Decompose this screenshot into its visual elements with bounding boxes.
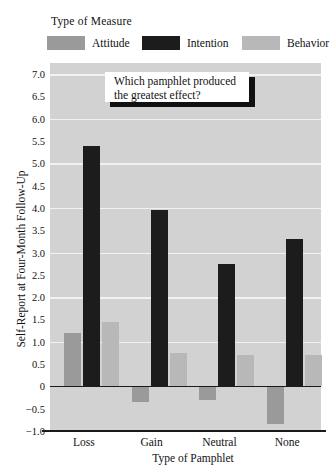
legend-label-intention: Intention	[187, 37, 229, 49]
bar-attitude-neutral	[199, 386, 216, 399]
callout-line-1: Which pamphlet produced	[114, 75, 242, 89]
bar-attitude-gain	[132, 386, 149, 402]
y-tick-label: 3.5	[32, 225, 45, 236]
legend-swatch-intention	[142, 36, 180, 50]
y-tick-label: 0	[40, 381, 45, 392]
bar-behavior-none	[305, 355, 322, 386]
legend-title: Type of Measure	[51, 15, 132, 27]
bar-behavior-gain	[170, 353, 187, 386]
y-tick-label: 7.0	[32, 69, 45, 80]
x-tick-label-gain: Gain	[140, 436, 162, 448]
zero-baseline	[50, 386, 321, 388]
bar-intention-loss	[83, 146, 100, 387]
y-tick-label: 2.5	[32, 269, 45, 280]
y-tick-label: 3.0	[32, 247, 45, 258]
callout-line-2: the greatest effect?	[114, 89, 242, 103]
legend-label-attitude: Attitude	[92, 37, 130, 49]
bar-attitude-loss	[64, 333, 81, 387]
legend-item-attitude: Attitude	[47, 35, 130, 51]
bar-behavior-neutral	[237, 355, 254, 386]
legend-swatch-attitude	[47, 36, 85, 50]
bar-intention-neutral	[218, 264, 235, 387]
y-tick-label: 1.0	[32, 336, 45, 347]
bar-chart: Type of Measure Attitude Intention Behav…	[0, 0, 330, 475]
y-tick-label: −0.5	[26, 403, 45, 414]
legend-label-behavior: Behavior	[287, 37, 329, 49]
chart-legend: Attitude Intention Behavior	[47, 35, 325, 51]
bar-attitude-none	[267, 386, 284, 424]
x-tick-label-loss: Loss	[73, 436, 95, 448]
x-tick-label-none: None	[275, 436, 300, 448]
bar-behavior-loss	[102, 322, 119, 387]
y-tick-label: 1.5	[32, 314, 45, 325]
x-tick-label-neutral: Neutral	[202, 436, 236, 448]
y-tick-label: 0.5	[32, 359, 45, 370]
callout-box: Which pamphlet produced the greatest eff…	[105, 72, 249, 102]
legend-item-intention: Intention	[142, 35, 229, 51]
x-axis-line	[42, 430, 326, 432]
y-axis-title: Self-Report at Four-Month Follow-Up	[15, 144, 27, 374]
legend-swatch-behavior	[242, 36, 280, 50]
x-axis-title: Type of Pamphlet	[28, 452, 330, 464]
y-tick-label: 2.0	[32, 292, 45, 303]
y-tick-label: 4.0	[32, 202, 45, 213]
gridline	[50, 119, 321, 121]
y-tick-label: 5.0	[32, 158, 45, 169]
legend-item-behavior: Behavior	[242, 35, 329, 51]
y-tick-label: 4.5	[32, 180, 45, 191]
y-tick-label: 6.5	[32, 91, 45, 102]
bar-intention-gain	[151, 210, 168, 386]
y-tick-label: 6.0	[32, 113, 45, 124]
bar-intention-none	[286, 239, 303, 386]
y-tick-label: 5.5	[32, 136, 45, 147]
